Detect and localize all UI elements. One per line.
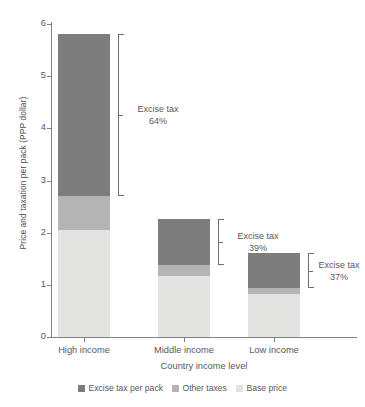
annotation-low-income: Excise tax 37% — [313, 260, 365, 283]
annotation-middle-income: Excise tax 39% — [225, 231, 291, 254]
legend-swatch-other-taxes — [172, 385, 179, 392]
y-tick-mark-3 — [47, 181, 51, 182]
bar-segment-middle-excise-tax — [158, 219, 210, 265]
legend-swatch-excise-tax-per-pack — [78, 385, 85, 392]
y-tick-label-3: 3 — [28, 175, 46, 185]
y-tick-label-6: 6 — [28, 18, 46, 28]
bar-segment-middle-other-taxes — [158, 265, 210, 276]
legend-swatch-base-price — [236, 385, 243, 392]
y-tick-label-0: 0 — [28, 331, 46, 341]
y-tick-label-2: 2 — [28, 227, 46, 237]
y-tick-mark-6 — [47, 24, 51, 25]
x-tick-mark-high — [84, 338, 85, 342]
bar-segment-middle-base-price — [158, 276, 210, 337]
x-tick-mark-middle — [184, 338, 185, 342]
y-tick-label-4: 4 — [28, 122, 46, 132]
annotation-high-line2: 64% — [125, 116, 191, 128]
annotation-low-line2: 37% — [313, 272, 365, 284]
annotation-bracket-middle — [218, 219, 224, 265]
bar-segment-low-excise-tax — [248, 253, 300, 288]
legend-label-other-taxes: Other taxes — [182, 383, 226, 393]
legend-label-excise-tax-per-pack: Excise tax per pack — [88, 383, 163, 393]
annotation-middle-line1: Excise tax — [225, 231, 291, 243]
y-tick-mark-0 — [47, 337, 51, 338]
chart-legend: Excise tax per pack Other taxes Base pri… — [0, 383, 365, 393]
annotation-bracket-high — [118, 34, 124, 196]
y-tick-mark-5 — [47, 76, 51, 77]
bar-segment-low-base-price — [248, 294, 300, 337]
bar-segment-high-base-price — [58, 230, 110, 337]
legend-item-other-taxes: Other taxes — [172, 383, 227, 393]
y-axis-line — [51, 22, 52, 338]
bar-segment-high-excise-tax — [58, 34, 110, 196]
bar-segment-high-other-taxes — [58, 196, 110, 230]
legend-label-base-price: Base price — [246, 383, 287, 393]
annotation-low-line1: Excise tax — [313, 260, 365, 272]
x-tick-label-low: Low income — [219, 345, 329, 355]
y-tick-mark-2 — [47, 233, 51, 234]
x-tick-label-high: High income — [29, 345, 139, 355]
chart-figure: Price and taxation per pack (PPP dollar)… — [0, 0, 365, 407]
y-tick-mark-1 — [47, 285, 51, 286]
x-axis-label: Country income level — [51, 361, 357, 371]
y-tick-label-1: 1 — [28, 279, 46, 289]
x-axis-line — [51, 337, 357, 338]
y-tick-label-5: 5 — [28, 70, 46, 80]
annotation-high-income: Excise tax 64% — [125, 104, 191, 127]
y-axis-label: Price and taxation per pack (PPP dollar) — [18, 58, 28, 288]
y-tick-mark-4 — [47, 128, 51, 129]
annotation-high-line1: Excise tax — [125, 104, 191, 116]
legend-item-excise-tax-per-pack: Excise tax per pack — [78, 383, 163, 393]
x-tick-mark-low — [274, 338, 275, 342]
bar-segment-low-other-taxes — [248, 288, 300, 294]
legend-item-base-price: Base price — [236, 383, 287, 393]
